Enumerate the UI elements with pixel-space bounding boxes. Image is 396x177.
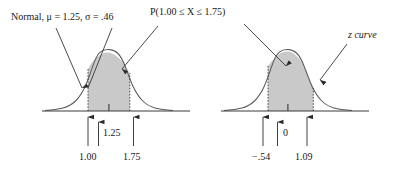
left-curve-upper-bound-label: 1.75 <box>123 152 141 162</box>
normal-distribution-figure: Normal, μ = 1.25, σ = .46 P(1.00 ≤ X ≤ 1… <box>0 0 396 177</box>
probability-label-leader-right <box>244 24 286 66</box>
right-curve-mean-label: 0 <box>283 128 288 138</box>
normal-label-leader-left <box>56 28 82 88</box>
right-curve-lower-bound-label: −.54 <box>252 152 270 162</box>
probability-label-leader-left <box>122 26 158 69</box>
z-curve-label: z curve <box>348 30 377 40</box>
right-curve-shaded-region <box>268 51 313 111</box>
normal-parameters-label: Normal, μ = 1.25, σ = .46 <box>11 12 114 22</box>
z-curve-label-leader <box>320 44 347 80</box>
right-curve-group <box>221 50 369 146</box>
left-curve-lower-bound-label: 1.00 <box>79 152 97 162</box>
figure-graphics <box>0 0 396 177</box>
probability-statement-label: P(1.00 ≤ X ≤ 1.75) <box>150 7 225 17</box>
left-curve-mean-label: 1.25 <box>103 128 121 138</box>
right-curve-upper-bound-label: 1.09 <box>295 152 313 162</box>
